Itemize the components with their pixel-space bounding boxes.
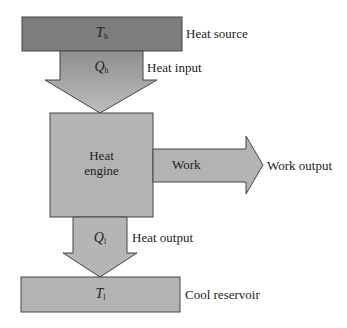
cool-reservoir-symbol: Tl (21, 286, 180, 302)
heat-input-label: Heat input (147, 60, 202, 76)
heat-engine-label: Heat engine (50, 148, 153, 178)
work-arrow (153, 136, 263, 194)
work-output-label: Work output (267, 158, 332, 174)
heat-source-label: Heat source (186, 26, 248, 42)
heat-source-symbol: Th (22, 25, 182, 41)
heat-output-arrow (63, 217, 137, 277)
heat-output-label: Heat output (132, 230, 193, 246)
cool-reservoir-label: Cool reservoir (185, 287, 260, 303)
heat-input-symbol: Qh (60, 59, 143, 75)
work-label: Work (172, 157, 201, 173)
heat-output-symbol: Ql (73, 230, 127, 246)
